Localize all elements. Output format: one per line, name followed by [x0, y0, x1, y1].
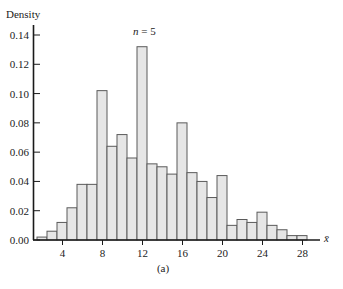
- histogram-bar: [177, 123, 187, 240]
- histogram-chart: 0.000.020.040.060.080.100.120.14 4812162…: [0, 0, 343, 289]
- figure-caption: (a): [157, 262, 170, 275]
- histogram-bar: [57, 222, 67, 240]
- histogram-bar: [77, 184, 87, 240]
- histogram-bar: [147, 164, 157, 240]
- histogram-bar: [197, 181, 207, 240]
- y-axis-title: Density: [6, 8, 41, 20]
- y-tick-label: 0.06: [10, 146, 30, 158]
- x-tick-label: 4: [60, 247, 66, 259]
- histogram-bar: [97, 91, 107, 240]
- x-tick-label: 20: [217, 247, 229, 259]
- x-axis-title: x̄: [323, 232, 329, 244]
- x-tick-label: 12: [137, 247, 148, 259]
- y-tick-label: 0.02: [10, 205, 29, 217]
- histogram-bar: [227, 225, 237, 240]
- histogram-bar: [167, 174, 177, 240]
- x-tick-label: 28: [297, 247, 309, 259]
- y-tick-label: 0.14: [10, 29, 30, 41]
- x-tick-label: 8: [100, 247, 106, 259]
- x-tick-label: 24: [257, 247, 269, 259]
- histogram-bar: [87, 184, 97, 240]
- y-tick-label: 0.10: [10, 88, 30, 100]
- histogram-bar: [207, 198, 217, 240]
- histogram-bars: [37, 47, 307, 240]
- histogram-bar: [47, 231, 57, 240]
- y-tick-label: 0.12: [10, 58, 29, 70]
- histogram-bar: [277, 230, 287, 240]
- x-axis-ticks: 481216202428: [60, 240, 309, 259]
- histogram-bar: [67, 208, 77, 240]
- histogram-bar: [187, 173, 197, 240]
- y-tick-label: 0.04: [10, 175, 30, 187]
- y-tick-label: 0.08: [10, 117, 30, 129]
- histogram-bar: [157, 167, 167, 240]
- histogram-bar: [117, 135, 127, 240]
- histogram-bar: [257, 212, 267, 240]
- histogram-bar: [267, 225, 277, 240]
- histogram-bar: [127, 158, 137, 240]
- histogram-bar: [137, 47, 147, 240]
- y-tick-label: 0.00: [10, 234, 30, 246]
- histogram-bar: [217, 176, 227, 240]
- histogram-bar: [237, 220, 247, 241]
- y-axis-ticks: 0.000.020.040.060.080.100.120.14: [10, 29, 40, 246]
- histogram-bar: [247, 222, 257, 240]
- x-tick-label: 16: [177, 247, 189, 259]
- histogram-bar: [107, 146, 117, 240]
- annotation-value: = 5: [139, 25, 157, 37]
- sample-size-annotation: n = 5: [133, 25, 156, 37]
